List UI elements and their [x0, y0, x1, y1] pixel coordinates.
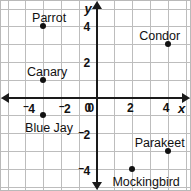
coordinate-plane-graph: –4–202442–2–40yxParrotCondorCanaryBlue J…	[0, 0, 191, 191]
y-axis-label: y	[85, 2, 92, 15]
grid-line-vertical	[61, 1, 62, 190]
y-tick-label: –2	[79, 128, 91, 141]
negative-sign: –	[23, 101, 29, 112]
negative-sign: –	[79, 127, 85, 138]
y-axis-down-arrow-icon	[92, 182, 102, 190]
x-axis-label: x	[178, 102, 185, 115]
data-point-label: Parakeet	[135, 137, 185, 150]
x-tick-label: 2	[127, 102, 134, 114]
data-point-label: Parrot	[32, 12, 66, 25]
data-point-label: Condor	[139, 30, 180, 43]
y-tick-label: 4	[84, 21, 91, 33]
y-axis-up-arrow-icon	[92, 1, 102, 9]
grid-line-vertical	[114, 1, 115, 190]
data-point-label: Blue Jay	[25, 122, 73, 135]
y-axis	[96, 3, 98, 188]
data-point-label: Mockingbird	[112, 176, 179, 189]
data-point[interactable]	[40, 112, 46, 118]
grid-line-vertical	[43, 1, 44, 190]
y-tick-label: –4	[79, 164, 91, 177]
negative-sign: –	[59, 101, 65, 112]
x-tick-label: –2	[59, 102, 71, 115]
negative-sign: –	[79, 163, 85, 174]
x-tick-label: –4	[23, 102, 35, 115]
data-point-label: Canary	[27, 66, 67, 79]
y-tick-label: 2	[84, 57, 91, 69]
grid-line-vertical	[132, 1, 133, 190]
x-axis-left-arrow-icon	[1, 93, 9, 103]
grid-line-vertical	[79, 1, 80, 190]
data-point[interactable]	[129, 166, 135, 172]
origin-label: 0	[85, 102, 92, 114]
x-tick-label: 4	[163, 102, 170, 114]
grid-line-vertical	[25, 1, 26, 190]
